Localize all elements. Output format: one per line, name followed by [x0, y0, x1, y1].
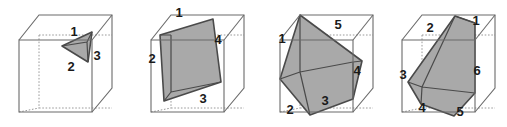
edge-label-4: 4: [353, 63, 361, 78]
edge-label-4: 4: [418, 100, 426, 115]
edge-label-3: 3: [93, 48, 100, 63]
edge-label-2: 2: [426, 20, 433, 35]
cube-edge-top-right-depth: [92, 15, 112, 40]
edge-label-4: 4: [214, 32, 222, 47]
edge-label-3: 3: [199, 91, 206, 106]
cube-hidden-edge-bottom-left-depth: [151, 108, 171, 112]
cube-cross-section-figure: 1 2 3 1 2 3 4: [0, 0, 507, 127]
cube-edge-top-right-depth: [353, 15, 373, 40]
edge-label-5: 5: [456, 104, 463, 119]
cube-hidden-edge-bottom-left-depth: [19, 108, 39, 112]
panel-hexagonal-cross-section: 1 2 3 4 5 6: [380, 0, 507, 127]
edge-label-5: 5: [334, 17, 341, 32]
edge-label-2: 2: [148, 51, 155, 66]
edge-label-1: 1: [175, 5, 182, 20]
edge-label-3: 3: [399, 67, 406, 82]
edge-label-3: 3: [321, 93, 328, 108]
edge-label-1: 1: [278, 31, 285, 46]
edge-label-6: 6: [473, 63, 480, 78]
edge-label-1: 1: [472, 13, 479, 28]
panel-pentagonal-cross-section: 1 2 3 4 5: [254, 0, 381, 127]
cube-edge-top-right-depth: [224, 15, 244, 40]
panel-quadrilateral-cross-section: 1 2 3 4: [127, 0, 254, 127]
edge-label-1: 1: [70, 24, 77, 39]
panel-triangular-cross-section: 1 2 3: [0, 0, 127, 127]
edge-label-2: 2: [286, 102, 293, 117]
edge-label-2: 2: [67, 59, 74, 74]
cube-top-right-outline: [19, 15, 112, 112]
